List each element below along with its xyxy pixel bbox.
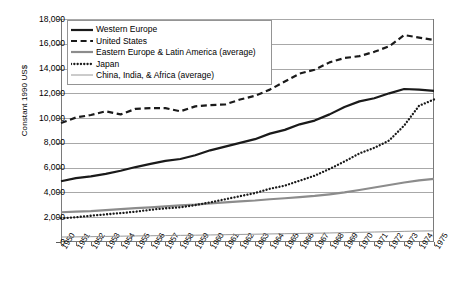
gridline <box>62 93 433 94</box>
legend-label: Eastern Europe & Latin America (average) <box>96 48 256 57</box>
y-axis-tick-mark <box>56 118 61 119</box>
y-axis-tick-mark <box>56 192 61 193</box>
legend-item-0[interactable]: Western Europe <box>71 24 267 35</box>
gridline <box>62 118 433 119</box>
gridline <box>62 168 433 169</box>
chart-legend: Western EuropeUnited StatesEastern Europ… <box>67 20 272 85</box>
y-axis-tick-mark <box>56 93 61 94</box>
x-axis-tick-label: 1975 <box>433 231 450 251</box>
y-axis-tick-mark <box>56 168 61 169</box>
y-axis-tick-mark <box>56 69 61 70</box>
y-axis-tick-mark <box>56 19 61 20</box>
legend-swatch-icon <box>71 47 93 57</box>
y-axis-tick-mark <box>56 44 61 45</box>
y-axis-tick-mark <box>56 143 61 144</box>
legend-item-2[interactable]: Eastern Europe & Latin America (average) <box>71 47 267 58</box>
gridline <box>62 217 433 218</box>
legend-swatch-icon <box>71 59 93 69</box>
gridline <box>62 192 433 193</box>
legend-label: Western Europe <box>96 25 157 34</box>
y-axis-title: Constant 1990 US$ <box>20 31 29 171</box>
legend-item-4[interactable]: China, India, & Africa (average) <box>71 70 267 81</box>
legend-swatch-icon <box>71 36 93 46</box>
legend-swatch-icon <box>71 70 93 80</box>
legend-label: China, India, & Africa (average) <box>96 71 214 80</box>
legend-label: Japan <box>96 60 119 69</box>
gridline <box>62 143 433 144</box>
legend-item-3[interactable]: Japan <box>71 58 267 69</box>
legend-swatch-icon <box>71 25 93 35</box>
y-axis-tick-mark <box>56 217 61 218</box>
legend-label: United States <box>96 37 147 46</box>
legend-item-1[interactable]: United States <box>71 35 267 46</box>
